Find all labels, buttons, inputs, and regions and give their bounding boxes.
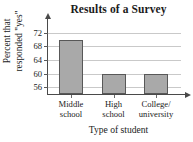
x-tick-mark (71, 95, 72, 98)
y-tick-label: 64 (33, 56, 42, 65)
chart-title: Results of a Survey (44, 3, 193, 16)
bar (59, 40, 83, 94)
x-axis-label: Type of student (44, 124, 193, 135)
y-axis-arrow-icon (45, 13, 51, 19)
y-axis-label: Percent that responded "yes" (0, 0, 26, 83)
x-tick-mark (156, 95, 157, 98)
x-axis-arrow-icon (185, 92, 191, 98)
x-axis-line (47, 94, 186, 95)
y-tick-mark (44, 87, 48, 88)
y-axis-label-line-2: responded "yes" (13, 10, 25, 71)
x-category-label-line: College/ (126, 99, 186, 109)
x-tick-mark (114, 95, 115, 98)
y-tick-label: 72 (33, 29, 42, 38)
y-axis-label-line-1: Percent that (1, 10, 13, 71)
y-tick-label: 60 (33, 70, 42, 79)
y-tick-mark (44, 33, 48, 34)
survey-bar-chart: Results of a Survey Percent that respond… (0, 0, 193, 142)
y-tick-mark (44, 46, 48, 47)
y-tick-label: 56 (33, 83, 42, 92)
y-tick-label: 68 (33, 42, 42, 51)
y-tick-mark (44, 74, 48, 75)
gridline (47, 33, 181, 34)
plot-area: 7268646056 (47, 26, 181, 94)
y-tick-mark (44, 60, 48, 61)
x-category-label: College/university (126, 99, 186, 119)
y-axis-line (47, 18, 48, 94)
x-category-label-line: university (126, 109, 186, 119)
bar (144, 74, 168, 94)
bar (102, 74, 126, 94)
